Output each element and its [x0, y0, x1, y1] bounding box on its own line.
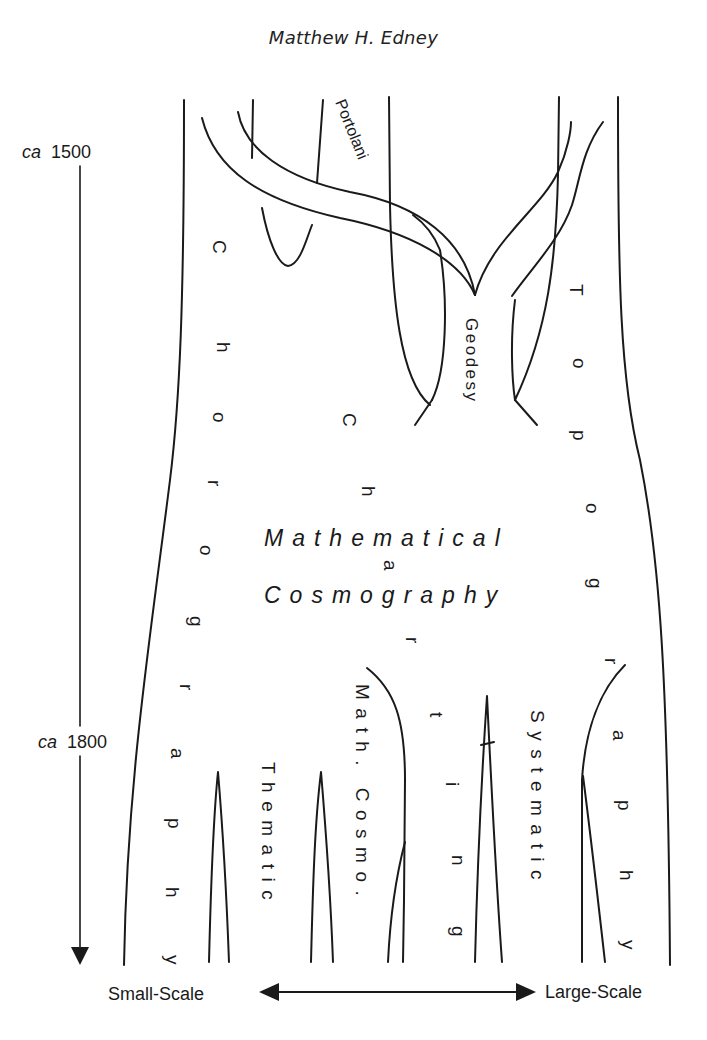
label-math-cosmo: Math. Cosmo.	[352, 684, 373, 904]
svg-text:r: r	[176, 684, 197, 691]
timeline: ca 1500 ca 1800	[22, 142, 107, 965]
svg-text:p: p	[614, 800, 635, 811]
thematic-peak-left	[209, 772, 229, 962]
cartographic-modes-diagram: ca 1500 ca 1800	[0, 0, 707, 1040]
label-large-scale: Large-Scale	[545, 982, 642, 1002]
outer-boundary-right	[618, 97, 670, 965]
label-thematic: Thematic	[258, 762, 279, 908]
chorography-lens	[262, 208, 312, 266]
timeline-start-label: ca 1500	[22, 142, 91, 162]
double-arrow-horizontal-icon	[259, 983, 536, 1001]
scale-axis: Small-Scale Large-Scale	[108, 982, 642, 1004]
svg-text:r: r	[204, 480, 225, 487]
label-mathematical: Mathematical	[264, 525, 509, 551]
portolani-right-border-upper	[317, 100, 323, 183]
timeline-end-year: 1800	[67, 732, 107, 752]
charting-left-border-upper	[389, 97, 390, 205]
svg-text:h: h	[213, 342, 234, 353]
svg-text:T: T	[566, 284, 587, 296]
label-topography: T o p o g r a p h y	[566, 284, 639, 950]
label-portolani: Portolani	[332, 97, 371, 162]
svg-text:g: g	[585, 578, 606, 589]
label-small-scale: Small-Scale	[108, 984, 204, 1004]
systematic-peak-crossbar	[481, 742, 494, 745]
svg-text:o: o	[569, 358, 590, 369]
arrow-down-icon	[71, 947, 89, 965]
outer-boundary-left	[124, 100, 184, 965]
label-systematic: Systematic	[527, 710, 548, 888]
timeline-end-label: ca 1800	[38, 732, 107, 752]
label-geodesy: Geodesy	[462, 318, 481, 404]
svg-text:a: a	[380, 560, 401, 571]
timeline-end-prefix: ca	[38, 732, 57, 752]
topography-left-border-upper	[558, 97, 559, 175]
thematic-peak-right	[311, 772, 333, 962]
svg-text:n: n	[448, 855, 469, 866]
svg-text:o: o	[196, 545, 217, 556]
portolani-left-border-upper	[252, 100, 253, 158]
systematic-peak	[475, 696, 502, 962]
svg-text:i: i	[442, 782, 463, 786]
svg-text:r: r	[601, 658, 622, 665]
label-cosmography: Cosmography	[264, 582, 506, 608]
timeline-start-prefix: ca	[22, 142, 41, 162]
svg-text:y: y	[162, 955, 183, 965]
svg-text:h: h	[616, 870, 637, 881]
svg-text:g: g	[186, 616, 207, 627]
geodesy-lens-left-tail	[415, 400, 432, 425]
svg-text:C: C	[339, 413, 360, 427]
svg-text:o: o	[209, 412, 230, 423]
geodesy-lens-right-tail	[515, 400, 537, 425]
systematic-branch	[583, 776, 605, 962]
svg-text:r: r	[402, 637, 423, 644]
svg-text:g: g	[448, 926, 469, 937]
portolani-band-outer	[202, 118, 475, 295]
timeline-start-year: 1500	[51, 142, 91, 162]
svg-text:a: a	[609, 730, 630, 741]
svg-text:p: p	[569, 430, 590, 441]
figure-page: Matthew H. Edney ca 1500 ca 1800	[0, 0, 707, 1040]
svg-text:h: h	[162, 887, 183, 898]
svg-text:t: t	[426, 712, 447, 718]
svg-text:C: C	[209, 240, 230, 254]
svg-text:p: p	[164, 818, 185, 829]
svg-text:h: h	[358, 486, 379, 497]
svg-text:y: y	[618, 940, 639, 950]
svg-text:o: o	[582, 503, 603, 514]
svg-text:a: a	[167, 748, 188, 759]
